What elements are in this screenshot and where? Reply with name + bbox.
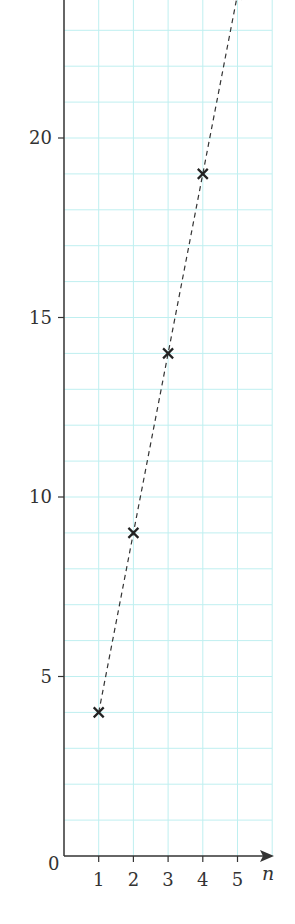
grid: [64, 0, 272, 856]
axes: [64, 0, 274, 862]
dashed-trend-line: [99, 0, 248, 712]
x-tick-label: 3: [162, 869, 173, 890]
y-tick-label: 20: [29, 127, 52, 148]
y-tick-label: 10: [29, 486, 52, 507]
origin-label: 0: [48, 853, 59, 874]
x-tick-label: 2: [128, 869, 139, 890]
x-axis-label: n: [262, 862, 274, 884]
y-tick-label: 5: [41, 666, 52, 687]
y-tick-label: 15: [29, 307, 52, 328]
ticks: 123455101520: [29, 127, 243, 890]
x-tick-label: 5: [232, 869, 243, 890]
sequence-chart: 123455101520 0 n: [0, 0, 295, 924]
x-tick-label: 4: [197, 869, 208, 890]
x-tick-label: 1: [93, 869, 104, 890]
